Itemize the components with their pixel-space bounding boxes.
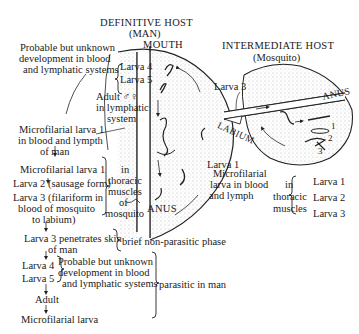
probable-top-line2: development in blood	[19, 53, 111, 64]
mosquito-stage-3: 3	[318, 146, 323, 157]
intermediate-host-title: INTERMEDIATE HOST	[222, 40, 334, 51]
cycle-final-microfilarial-larva: Microfilarial larva	[21, 314, 98, 325]
parasitic-in-man: parasitic in man	[159, 279, 226, 290]
penetration-line2: of man	[48, 244, 77, 255]
stage-larva-3-line1: Larva 3 (filariform in	[13, 192, 103, 203]
mosquito-stage-2: 2	[328, 133, 333, 144]
bracket-mosquito: mosquito	[105, 208, 144, 219]
cycle-probable-line1: Probable but unknown	[58, 256, 153, 267]
thoracic-right-larva-3: Larva 3	[313, 208, 345, 219]
stage-larva-3-line3: to labium)	[32, 214, 75, 225]
thoracic-right-larva-2: Larva 2	[313, 192, 345, 203]
cycle-probable-line3: and lymphatic systems	[62, 278, 158, 289]
definitive-host-title: DEFINITIVE HOST	[100, 17, 193, 28]
microfilarial-lymph-line3: and lymph	[209, 190, 254, 201]
brief-non-parasitic-phase: brief non-parasitic phase	[122, 236, 226, 247]
man-larva-5: Larva 5	[120, 74, 152, 85]
cycle-larva-4: Larva 4	[22, 260, 54, 271]
bracket-in: in	[121, 164, 129, 175]
man-larva-4: Larva 4	[120, 61, 152, 72]
microfilarial-lymph-line2: larva in blood	[210, 179, 268, 190]
microfilarial-lymph-line1: Microfilarial	[213, 168, 267, 179]
microfilarial-man-line2: in blood and lympth	[18, 135, 103, 146]
stage-microfilarial-larva-1: Microfilarial larva 1	[20, 164, 105, 175]
adult-line2: in lymphatic	[96, 102, 149, 113]
thoracic-right-in: in	[285, 179, 293, 190]
probable-top-line1: Probable but unknown	[20, 42, 115, 53]
cycle-larva-5: Larva 5	[22, 273, 54, 284]
man-anus-label: ANUS	[147, 203, 177, 214]
mosquito-body-diagram	[224, 64, 353, 165]
stage-larva-3-line2: blood of mosquito	[18, 203, 95, 214]
mouth-label: MOUTH	[143, 39, 183, 50]
bracket-muscles: muscles	[108, 186, 142, 197]
cycle-adult: Adult	[35, 294, 59, 305]
thoracic-right-larva-1: Larva 1	[313, 176, 345, 187]
microfilarial-man-line3: of man	[40, 146, 69, 157]
definitive-host-subtitle: (MAN)	[129, 28, 161, 39]
thoracic-right-thoracic: thoracic	[273, 191, 307, 202]
stage-larva-2: Larva 2 (sausage form)	[13, 178, 111, 189]
mosquito-stage-1: 1	[331, 121, 336, 132]
probable-top-line3: and lymphatic systems	[23, 64, 119, 75]
bracket-of: of	[119, 197, 128, 208]
adult-line1: Adult ♂♀	[96, 91, 138, 102]
thoracic-right-muscles: muscles	[273, 203, 307, 214]
adult-line3: system	[107, 113, 136, 124]
cycle-probable-line2: development in blood	[58, 267, 150, 278]
man-larva-3: Larva 3	[214, 81, 246, 92]
penetration-line1: Larva 3 penetrates skin	[24, 233, 122, 244]
microfilarial-man-line1: Microfilarial larva 1	[19, 124, 104, 135]
intermediate-host-subtitle: (Mosquito)	[253, 52, 300, 63]
bracket-thoracic: thoracic	[108, 175, 142, 186]
